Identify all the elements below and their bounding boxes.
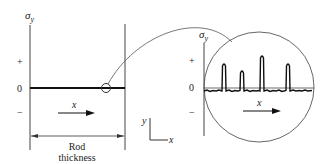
magnified-x-arrow-head [272,108,281,114]
coord-y-label: y [141,115,147,126]
coordinate-axes [150,118,168,140]
x-arrow-head [86,110,95,116]
left-x-label: x [71,99,77,110]
left-tick-minus: − [17,107,23,118]
thickness-label: thickness [58,152,95,163]
right-x-label: x [256,97,262,108]
magnifier-circle [204,32,314,142]
left-tick-zero: 0 [17,83,22,94]
dim-arrow-right [117,134,124,138]
right-tick-zero: 0 [189,82,194,93]
right-sigma-label: σy [199,28,208,43]
stress-trace [204,56,312,92]
left-panel [30,24,125,150]
coord-x-label: x [168,134,174,145]
magnified-panel [204,32,314,142]
rod-label: Rod [69,141,86,152]
right-tick-plus: + [189,55,195,66]
left-tick-plus: + [17,56,23,67]
dim-arrow-left [31,134,38,138]
left-sigma-label: σy [25,9,34,24]
stress-diagram: σy + 0 − x Rod thickness y x σy + 0 − x [0,0,330,164]
right-tick-minus: − [189,107,195,118]
